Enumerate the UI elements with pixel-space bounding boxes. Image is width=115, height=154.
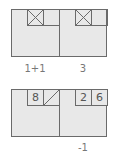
- cell-label: -1: [68, 142, 98, 153]
- crossed-box-icon: [75, 9, 92, 26]
- digit-box: 2: [75, 89, 92, 106]
- digit-box: 8: [27, 89, 44, 106]
- crossed-box-icon: [27, 9, 44, 26]
- digit-box: 6: [91, 89, 108, 106]
- cell-label: 3: [68, 63, 98, 74]
- cell-label: 1+1: [20, 63, 50, 74]
- slashed-box-icon: [43, 89, 60, 106]
- diagram-row-1: [11, 9, 107, 57]
- diagram-row-2: 8 2 6: [11, 89, 107, 137]
